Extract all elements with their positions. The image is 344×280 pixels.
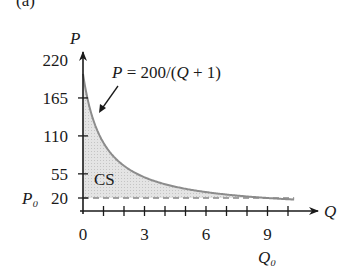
y-axis-label: P	[69, 29, 80, 48]
x-axis-tick-labels: 0369	[79, 225, 272, 244]
q0-label: Q₀	[258, 248, 276, 267]
y-tick-label: 165	[43, 89, 69, 108]
x-axis-label: Q	[324, 202, 336, 221]
y-axis-tick-labels: 2201651105520	[43, 51, 69, 208]
consumer-surplus-label: CS	[94, 170, 115, 189]
y-tick-label: 220	[43, 51, 69, 70]
chart-canvas: 0369 2201651105520 P Q P₀ Q₀ P = 200/(Q …	[0, 0, 344, 280]
y-tick-label: 55	[51, 165, 68, 184]
equation-label: P = 200/(Q + 1)	[111, 63, 221, 82]
x-tick-label: 0	[79, 225, 88, 244]
panel-label: (a)	[16, 0, 35, 10]
x-tick-label: 6	[202, 225, 211, 244]
p0-label: P₀	[21, 189, 38, 208]
y-tick-label: 20	[51, 189, 68, 208]
y-tick-label: 110	[43, 127, 68, 146]
x-tick-label: 3	[140, 225, 149, 244]
x-tick-label: 9	[263, 225, 272, 244]
